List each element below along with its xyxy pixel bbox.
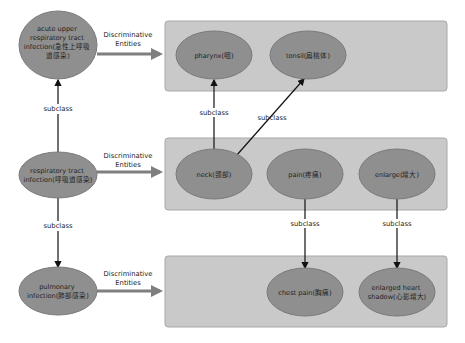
subclass-label-e5-e7: subclass — [382, 220, 411, 228]
svg-text:respiratory tract infect: respiratory tract infection(呼吸道感染) — [24, 167, 93, 184]
svg-text:pharynx(咽): pharynx(咽) — [194, 52, 233, 60]
disease-node-d2[interactable]: respiratory tract infection(呼吸道感染) — [19, 152, 97, 198]
entity-node-pain[interactable]: pain(疼痛) — [267, 149, 343, 199]
disease-node-d3[interactable]: pulmonary infection(肺部感染) — [19, 267, 97, 315]
subclass-label-d2-d1: subclass — [43, 105, 72, 113]
diagram-canvas: DiscriminativeEntities DiscriminativeEnt… — [0, 0, 465, 343]
svg-text:pain(疼痛): pain(疼痛) — [288, 170, 321, 179]
subclass-label-d2-d3: subclass — [43, 222, 72, 230]
disease-node-d1[interactable]: acute upper respiratory tract infection(… — [19, 11, 97, 79]
entity-node-enlarged-heart-shadow[interactable]: enlarged heart shadow(心影增大) — [359, 268, 435, 316]
subclass-label-e4-e6: subclass — [290, 220, 319, 228]
entity-node-enlarge[interactable]: enlarge(增大) — [359, 149, 435, 199]
subclass-label-e3-e1: subclass — [199, 109, 228, 117]
entity-node-pharynx[interactable]: pharynx(咽) — [176, 31, 252, 79]
discriminative-label-2: DiscriminativeEntities — [104, 152, 153, 169]
discriminative-label-1: DiscriminativeEntities — [104, 31, 153, 48]
svg-text:tonsil(扁桃体): tonsil(扁桃体) — [286, 51, 330, 60]
svg-text:neck(颈部): neck(颈部) — [197, 170, 232, 179]
svg-text:enlarge(增大): enlarge(增大) — [375, 170, 419, 179]
entity-node-neck[interactable]: neck(颈部) — [176, 149, 252, 199]
entity-node-tonsil[interactable]: tonsil(扁桃体) — [270, 31, 346, 79]
discriminative-label-3: DiscriminativeEntities — [104, 270, 153, 287]
svg-text:enlarged heart shadow(心影: enlarged heart shadow(心影增大) — [368, 284, 426, 301]
svg-text:chest pain(胸痛): chest pain(胸痛) — [278, 288, 331, 297]
entity-node-chest-pain[interactable]: chest pain(胸痛) — [267, 268, 343, 316]
subclass-label-e3-e2: subclass — [257, 114, 286, 122]
